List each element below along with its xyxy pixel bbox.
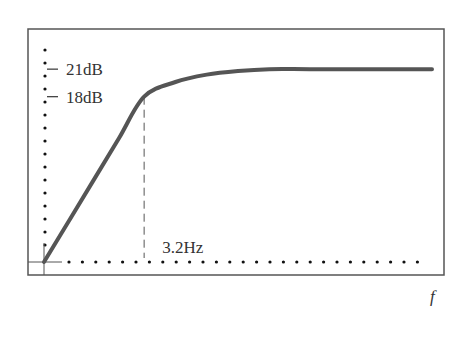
x-axis-dot <box>134 260 137 263</box>
x-axis-dot <box>402 260 405 263</box>
y-axis-dot <box>43 152 46 155</box>
x-axis-dot <box>376 260 379 263</box>
y-tick-label: 21dB <box>66 60 103 79</box>
x-axis-dot <box>349 260 352 263</box>
x-axis-dot <box>282 260 285 263</box>
x-axis-dot <box>309 260 312 263</box>
x-axis-dot <box>322 260 325 263</box>
x-axis-dot <box>255 260 258 263</box>
x-axis-dot <box>362 260 365 263</box>
y-axis-dot <box>43 165 46 168</box>
x-axis-dot <box>335 260 338 263</box>
x-axis-dot <box>242 260 245 263</box>
y-axis-dots <box>43 48 46 246</box>
y-tick-label: 18dB <box>66 88 103 107</box>
y-axis-dot <box>43 87 46 90</box>
y-axis-dot <box>43 139 46 142</box>
y-axis-dot <box>43 61 46 64</box>
chart: 21dB18dB 3.2Hz f <box>0 0 467 353</box>
x-axis-dot <box>148 260 151 263</box>
x-axis-dot <box>201 260 204 263</box>
x-axis-dot <box>268 260 271 263</box>
y-axis-dot <box>43 126 46 129</box>
frequency-marker-label: 3.2Hz <box>162 238 204 257</box>
y-axis-dot <box>43 178 46 181</box>
y-axis-dot <box>43 191 46 194</box>
x-axis-dot <box>81 260 84 263</box>
x-axis-dots <box>67 260 419 263</box>
x-axis-dot <box>108 260 111 263</box>
x-axis-dot <box>215 260 218 263</box>
x-axis-dot <box>228 260 231 263</box>
y-axis-dot <box>43 217 46 220</box>
y-axis-dot <box>43 204 46 207</box>
x-axis-dot <box>121 260 124 263</box>
x-axis-dot <box>161 260 164 263</box>
x-axis-dot <box>389 260 392 263</box>
x-axis-dot <box>188 260 191 263</box>
x-axis-label: f <box>430 287 437 306</box>
x-axis-dot <box>295 260 298 263</box>
x-axis-dot <box>94 260 97 263</box>
y-axis-dot <box>43 230 46 233</box>
x-axis-dot <box>175 260 178 263</box>
y-axis-dot <box>43 100 46 103</box>
y-axis-dot <box>43 74 46 77</box>
x-axis-dot <box>67 260 70 263</box>
y-axis-dot <box>43 48 46 51</box>
x-axis-dot <box>416 260 419 263</box>
y-axis-dot <box>43 113 46 116</box>
